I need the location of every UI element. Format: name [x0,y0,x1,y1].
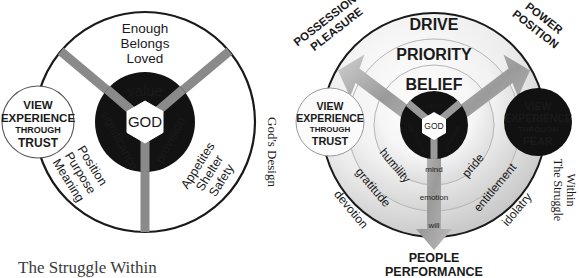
ring-label-drive: DRIVE [410,16,459,33]
badge-line-1: VIEW [525,100,552,112]
badge-line-1: VIEW [317,100,344,112]
badge-line-3: THROUGH [518,125,559,134]
badge-line-2: EXPERIENCE [1,112,75,124]
figure-caption: The Struggle Within [18,258,157,278]
axis-label-emotion: emotion [420,193,448,202]
badge-line-2: EXPERIENCE [504,112,572,124]
left-diagram-svg: value significance provision GOD Enough … [0,0,290,278]
axis-label-will: will [427,221,439,230]
badge-line-3: THROUGH [310,125,351,134]
outer-top-line-3: Loved [127,51,164,66]
ring-label-belief: BELIEF [406,76,463,93]
badge-view-experience-fear[interactable]: VIEW EXPERIENCE THROUGH FEAR [504,88,572,156]
outer-group-top: Enough Belongs Loved [121,21,170,66]
side-label-gods-design: God's Design [265,117,280,187]
badge-view-experience-trust[interactable]: VIEW EXPERIENCE THROUGH TRUST [1,86,75,158]
arrow-label-power-position: POWER POSITION [510,0,569,51]
outer-top-line-2: Belongs [121,36,170,51]
badge-line-4: TRUST [18,136,59,150]
badge-line-1: VIEW [23,99,53,111]
badge-line-4: TRUST [312,135,349,147]
arrow-label-people-performance: PEOPLE PERFORMANCE [385,251,483,278]
side-label-struggle-line-1: The Struggle [551,159,565,221]
left-diagram-panel: value significance provision GOD Enough … [0,0,290,278]
badge-view-experience-trust[interactable]: VIEW EXPERIENCE THROUGH TRUST [296,88,364,156]
inner-segment-label-value: value [127,82,163,99]
center-label-god: GOD [424,121,443,131]
figure-root: value significance provision GOD Enough … [0,0,579,278]
side-label-struggle-line-2: Within [564,174,578,207]
ring-label-priority: PRIORITY [396,46,472,63]
badge-line-2: EXPERIENCE [296,112,364,124]
right-diagram-svg: DRIVE PRIORITY BELIEF value significance [290,0,579,278]
axis-label-mind: mind [425,165,442,174]
center-label-god: GOD [128,113,162,130]
right-diagram-panel: DRIVE PRIORITY BELIEF value significance [290,0,579,278]
badge-line-4: FEAR [523,135,553,147]
arrow-label-line-2: PERFORMANCE [385,265,483,278]
badge-line-3: THROUGH [15,125,61,135]
inner-segment-label-value: value [425,101,443,110]
arrow-label-line-1: PEOPLE [409,251,460,265]
outer-top-line-1: Enough [122,21,169,36]
